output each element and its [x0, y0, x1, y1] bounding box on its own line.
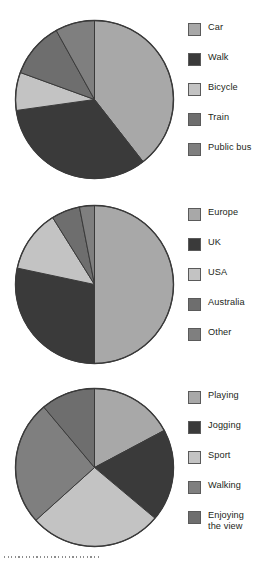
pie-slice — [95, 206, 174, 364]
legend-item: Car — [188, 22, 259, 52]
legend-label: USA — [208, 267, 227, 278]
legend-item: Australia — [188, 297, 259, 327]
legend-item: Europe — [188, 207, 259, 237]
legend-swatch-icon — [188, 83, 201, 96]
pie-graphic-origin — [14, 204, 175, 365]
legend-label: UK — [208, 237, 221, 248]
pie-graphic-activity — [14, 387, 175, 548]
legend-label: Sport — [208, 450, 230, 461]
legend-label: Other — [208, 327, 231, 338]
pie-chart-transport: CarWalkBicycleTrainPublic bus — [0, 0, 259, 188]
legend-item: Jogging — [188, 420, 259, 450]
legend-item: Sport — [188, 450, 259, 480]
legend-label: Enjoying the view — [208, 510, 244, 532]
legend-swatch-icon — [188, 391, 201, 404]
legend-swatch-icon — [188, 298, 201, 311]
legend-swatch-icon — [188, 238, 201, 251]
legend-swatch-icon — [188, 328, 201, 341]
legend-label: Bicycle — [208, 82, 238, 93]
legend-item: Enjoying the view — [188, 510, 259, 544]
legend-label: Train — [208, 112, 229, 123]
legend-item: Playing — [188, 390, 259, 420]
legend-item: Other — [188, 327, 259, 357]
legend-swatch-icon — [188, 143, 201, 156]
legend-label: Europe — [208, 207, 238, 218]
legend-item: Public bus — [188, 142, 259, 172]
pie-svg-activity — [14, 387, 175, 548]
legend-label: Public bus — [208, 142, 251, 153]
pie-chart-origin: EuropeUKUSAAustraliaOther — [0, 185, 259, 373]
pie-svg-origin — [14, 204, 175, 365]
legend-swatch-icon — [188, 23, 201, 36]
legend-label: Jogging — [208, 420, 241, 431]
pie-svg-transport — [14, 19, 175, 180]
legend-swatch-icon — [188, 268, 201, 281]
legend-swatch-icon — [188, 208, 201, 221]
legend-item: Train — [188, 112, 259, 142]
legend-transport: CarWalkBicycleTrainPublic bus — [188, 22, 259, 172]
legend-label: Playing — [208, 390, 239, 401]
legend-label: Walk — [208, 52, 228, 63]
legend-label: Walking — [208, 480, 241, 491]
legend-swatch-icon — [188, 53, 201, 66]
legend-swatch-icon — [188, 511, 201, 524]
legend-origin: EuropeUKUSAAustraliaOther — [188, 207, 259, 357]
legend-swatch-icon — [188, 481, 201, 494]
legend-label: Car — [208, 22, 223, 33]
legend-item: USA — [188, 267, 259, 297]
legend-item: Walking — [188, 480, 259, 510]
legend-swatch-icon — [188, 113, 201, 126]
legend-swatch-icon — [188, 451, 201, 464]
dotted-divider — [4, 556, 101, 558]
legend-item: Walk — [188, 52, 259, 82]
pie-chart-activity: PlayingJoggingSportWalkingEnjoying the v… — [0, 368, 259, 556]
legend-activity: PlayingJoggingSportWalkingEnjoying the v… — [188, 390, 259, 544]
pie-graphic-transport — [14, 19, 175, 180]
legend-label: Australia — [208, 297, 245, 308]
legend-item: Bicycle — [188, 82, 259, 112]
legend-item: UK — [188, 237, 259, 267]
legend-swatch-icon — [188, 421, 201, 434]
